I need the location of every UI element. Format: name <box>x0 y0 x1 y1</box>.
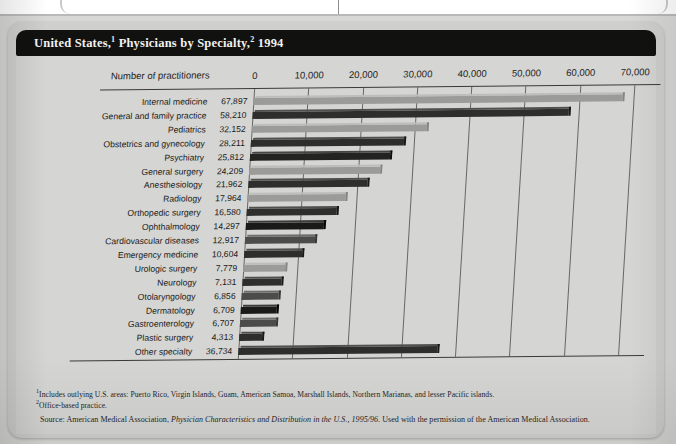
footnote-2-text: Office-based practice. <box>39 401 107 410</box>
bar <box>244 248 302 258</box>
axis-caption: Number of practitioners <box>111 69 210 81</box>
bar-front-face <box>246 222 324 230</box>
value-label: 17,964 <box>205 191 242 205</box>
page-corner-left <box>60 0 78 14</box>
value-label: 6,707 <box>198 316 235 330</box>
x-tick-label: 0 <box>252 70 258 81</box>
bar <box>249 164 381 174</box>
bar <box>252 107 569 119</box>
category-label: Pediatrics <box>168 122 207 136</box>
bar-end-cap <box>262 332 265 341</box>
previous-page-strip <box>0 0 676 16</box>
value-label: 25,812 <box>208 150 245 164</box>
bar <box>238 344 438 355</box>
bar-front-face <box>248 180 368 188</box>
category-label: Cardiovascular diseases <box>105 233 200 248</box>
title-text-suffix: 1994 <box>254 36 283 50</box>
bar-front-face <box>245 236 316 244</box>
category-label: Other specialty <box>134 345 192 360</box>
bar-end-cap <box>404 136 407 145</box>
category-label: Dermatology <box>146 303 196 317</box>
value-label: 21,962 <box>206 177 243 191</box>
bar-end-cap <box>302 248 305 257</box>
bar <box>251 122 426 133</box>
value-label: 28,211 <box>208 136 245 150</box>
page-seam <box>338 0 339 14</box>
bar-front-face <box>242 278 281 285</box>
category-label: Radiology <box>163 192 202 206</box>
x-tick-label: 60,000 <box>566 67 596 78</box>
bar <box>239 332 263 341</box>
bar-end-cap <box>390 150 393 159</box>
bar <box>248 178 368 188</box>
value-label: 67,897 <box>211 94 248 108</box>
bar-end-cap <box>285 262 288 271</box>
value-label: 16,580 <box>204 205 241 219</box>
bar-front-face <box>244 250 302 258</box>
bar-front-face <box>240 320 277 327</box>
footnote-1-text: Includes outlying U.S. areas: Puerto Ric… <box>39 390 494 399</box>
bar-top-face <box>243 304 280 306</box>
chart-card: United States,1 Physicians by Specialty,… <box>8 22 664 438</box>
source-prefix: Source: American Medical Association, <box>40 415 171 424</box>
value-label: 24,209 <box>207 163 244 177</box>
axis-line-top <box>100 84 660 90</box>
bar-front-face <box>243 264 286 271</box>
page-corner-right <box>650 0 668 14</box>
value-label: 14,297 <box>203 219 240 233</box>
bar-end-cap <box>323 220 326 229</box>
page-title: United States,1 Physicians by Specialty,… <box>34 35 284 51</box>
bar-end-cap <box>277 304 280 313</box>
bar-end-cap <box>426 122 429 131</box>
bar-front-face <box>251 138 405 146</box>
category-label: Orthopedic surgery <box>127 206 201 221</box>
value-label: 32,152 <box>209 122 246 136</box>
title-text-prefix: United States, <box>34 36 111 50</box>
category-label: Anesthesiology <box>144 178 203 193</box>
bar <box>251 136 405 146</box>
title-text-middle: Physicians by Specialty, <box>115 36 250 50</box>
bar-front-face <box>239 334 263 341</box>
plot-area: Number of practitioners 010,00020,00030,… <box>16 56 656 386</box>
bar-front-face <box>250 152 391 160</box>
bar-front-face <box>249 166 381 174</box>
value-label: 10,604 <box>202 247 239 261</box>
x-tick-label: 40,000 <box>457 68 487 79</box>
footnote-1: 1Includes outlying U.S. areas: Puerto Ri… <box>36 388 494 399</box>
source-suffix: Used with the permission of the American… <box>380 415 590 424</box>
bar-end-cap <box>281 276 284 285</box>
bar-end-cap <box>315 234 318 243</box>
source-publication: Physician Characteristics and Distributi… <box>171 415 380 424</box>
source-line: Source: American Medical Association, Ph… <box>40 415 590 424</box>
category-label: General surgery <box>141 164 204 179</box>
value-label: 6,709 <box>198 302 235 316</box>
bar <box>240 318 277 327</box>
category-label: Internal medicine <box>141 94 207 109</box>
bar-end-cap <box>276 318 279 327</box>
category-label: Plastic surgery <box>136 331 193 346</box>
bar-end-cap <box>568 107 571 116</box>
bar <box>242 276 281 285</box>
value-label: 6,856 <box>199 289 236 303</box>
value-label: 58,210 <box>210 108 247 122</box>
bar-end-cap <box>438 344 441 353</box>
bar-end-cap <box>279 290 282 299</box>
category-label: General and family practice <box>101 108 207 123</box>
value-label: 12,917 <box>203 233 240 247</box>
bar-end-cap <box>345 192 348 201</box>
bar-top-face <box>242 318 279 320</box>
x-tick-label: 50,000 <box>512 67 542 78</box>
plot-canvas: Number of practitioners 010,00020,00030,… <box>14 52 664 388</box>
bar <box>246 220 324 230</box>
category-label: Urologic surgery <box>134 261 197 276</box>
bar-top-face <box>246 262 288 264</box>
bar <box>250 150 391 160</box>
bar-end-cap <box>380 164 383 173</box>
value-label: 4,313 <box>197 330 234 344</box>
bar-front-face <box>247 194 345 202</box>
category-label: Neurology <box>157 275 197 289</box>
bar <box>243 262 286 271</box>
footnote-2: 2Office-based practice. <box>36 399 107 410</box>
category-label: Psychiatry <box>164 150 205 164</box>
value-label: 36,734 <box>196 344 233 358</box>
